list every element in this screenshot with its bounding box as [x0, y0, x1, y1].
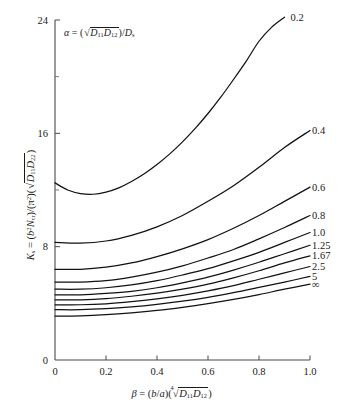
data-curve [55, 256, 310, 300]
data-curve [55, 233, 310, 290]
y-equals: = ( [25, 236, 36, 251]
y-tick-label: 24 [38, 15, 49, 26]
x-axis-label: β = (b/a)(4√D11D12) [0, 383, 343, 401]
curve-label: 0.2 [291, 12, 304, 23]
y-mid: )/( [25, 205, 36, 215]
tick-labels: 08162400.20.40.60.81.0 [38, 15, 317, 377]
curve-label: 1.25 [312, 240, 330, 251]
d12-sub: 12 [111, 31, 117, 38]
curve-label: 0.6 [312, 182, 325, 193]
y-tick-label: 8 [43, 241, 48, 252]
y-d22-sub: 22 [29, 155, 36, 161]
radical-body: D11D12 [90, 27, 119, 39]
root-index: 4 [171, 385, 174, 392]
y-sqrt-radical: √D11D22 [24, 153, 37, 189]
ks-sub: s [29, 251, 36, 254]
x-d12-sub: 12 [200, 392, 206, 399]
pi-symbol: π [25, 200, 36, 205]
curve-label: 1.67 [312, 250, 330, 261]
x-tick-label: 0.4 [150, 366, 164, 377]
data-curve [55, 245, 310, 295]
x-tick-label: 0.8 [252, 366, 265, 377]
y-axis-label: Ks = (b2Ncr)/(π2)(√D11D22) [20, 110, 38, 300]
data-curve [55, 131, 310, 244]
ds-var: D [125, 27, 132, 38]
data-curve [55, 187, 310, 269]
alpha-equals: = ( [69, 27, 83, 38]
y-d11-var: D [25, 175, 36, 183]
y-d11-sub: 11 [29, 169, 36, 175]
x-tick-label: 0.6 [201, 366, 214, 377]
x-tick-label: 0.2 [99, 366, 112, 377]
alpha-definition-note: α = (√D11D12)/Ds [64, 27, 134, 39]
x-radical-body: D11D12 [178, 387, 208, 400]
x-end: ) [208, 388, 212, 399]
x-tick-label: 0 [52, 366, 57, 377]
pi-sup: 2 [25, 197, 32, 200]
d11-var: D [90, 27, 97, 38]
curve-label: 1.0 [312, 227, 325, 238]
y-radical-glyph: √ [25, 183, 36, 189]
ks-symbol: K [25, 253, 36, 260]
chart-figure: 08162400.20.40.60.81.0 0.20.40.60.81.01.… [0, 0, 343, 410]
y-close: )( [25, 190, 36, 197]
y-axis-label-text: Ks = (b2Ncr)/(π2)(√D11D22) [25, 150, 36, 260]
ncr-var: N [25, 220, 36, 227]
data-curve [55, 17, 285, 194]
ds-sub: s [132, 31, 135, 38]
x-sqrt-radical: 4√D11D12 [172, 387, 208, 400]
data-curves [55, 17, 310, 316]
x-axis-label-text: β = (b/a)(4√D11D12) [131, 388, 211, 399]
curve-label: 0.4 [312, 125, 326, 136]
ncr-sub: cr [29, 215, 36, 220]
curve-label: 0.8 [312, 210, 325, 221]
y-tick-label: 16 [38, 128, 49, 139]
b-var: b [25, 231, 36, 236]
b-sup: 2 [25, 227, 32, 230]
y-radical-body: D11D22 [24, 153, 37, 183]
x-d11-var: D [179, 388, 187, 399]
d12-var: D [104, 27, 111, 38]
sqrt-radical: √D11D12 [83, 27, 118, 39]
x-equals: = ( [137, 388, 152, 399]
curve-labels: 0.20.40.60.81.01.251.672.55∞ [291, 12, 331, 290]
y-tick-label: 0 [43, 355, 48, 366]
chart-plot-area: 08162400.20.40.60.81.0 0.20.40.60.81.01.… [0, 0, 343, 410]
x-tick-label: 1.0 [303, 366, 316, 377]
y-d22-var: D [25, 161, 36, 169]
curve-label: ∞ [312, 279, 320, 290]
